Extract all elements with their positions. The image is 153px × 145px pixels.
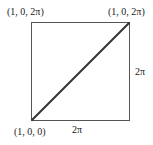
diagonal-line: [32, 23, 130, 121]
label-top-left: (1, 0, 2π): [7, 6, 44, 18]
label-right-side: 2π: [135, 66, 145, 78]
label-top-right: (1, 0, 2π): [108, 6, 145, 18]
label-bottom-side: 2π: [72, 124, 82, 136]
label-bottom-left: (1, 0, 0): [14, 126, 46, 138]
